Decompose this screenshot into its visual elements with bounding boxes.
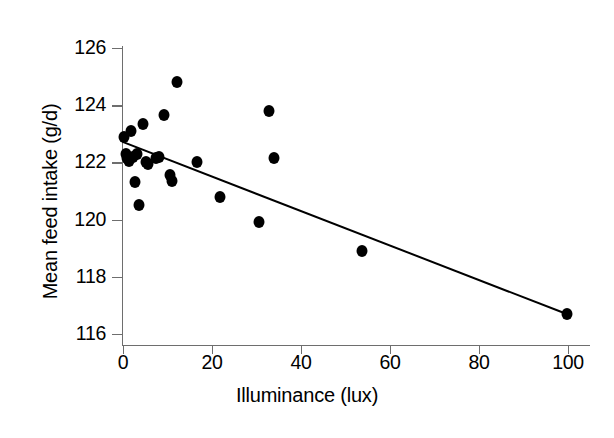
x-tick-label-80: 80 bbox=[449, 353, 509, 373]
y-tick-label-122: 122 bbox=[60, 152, 106, 172]
y-tick-124 bbox=[112, 105, 122, 106]
y-tick-116 bbox=[112, 334, 122, 335]
data-point bbox=[137, 118, 148, 130]
data-point bbox=[126, 125, 137, 137]
x-axis-line bbox=[122, 345, 590, 346]
y-tick-126 bbox=[112, 48, 122, 49]
x-axis-title: Illuminance (lux) bbox=[0, 384, 614, 407]
y-tick-label-120: 120 bbox=[60, 210, 106, 230]
y-tick-120 bbox=[112, 220, 122, 221]
data-point bbox=[254, 216, 265, 228]
data-point bbox=[268, 152, 279, 164]
data-point bbox=[263, 105, 274, 117]
data-point bbox=[166, 175, 177, 187]
x-tick-label-40: 40 bbox=[271, 353, 331, 373]
x-tick-label-0: 0 bbox=[93, 353, 153, 373]
data-point bbox=[215, 191, 226, 203]
trend-line bbox=[122, 141, 568, 315]
data-point bbox=[159, 109, 170, 121]
y-tick-118 bbox=[112, 277, 122, 278]
y-tick-label-118: 118 bbox=[60, 267, 106, 287]
y-tick-label-126: 126 bbox=[60, 38, 106, 58]
y-tick-label-116: 116 bbox=[60, 324, 106, 344]
x-tick-label-60: 60 bbox=[360, 353, 420, 373]
data-point bbox=[129, 176, 140, 188]
x-tick-label-100: 100 bbox=[538, 353, 598, 373]
plot-area bbox=[123, 48, 568, 334]
data-point bbox=[191, 156, 202, 168]
data-point bbox=[134, 199, 145, 211]
data-point bbox=[357, 245, 368, 257]
x-tick-label-20: 20 bbox=[182, 353, 242, 373]
y-tick-label-124: 124 bbox=[60, 95, 106, 115]
y-axis-title: Mean feed intake (g/d) bbox=[39, 32, 62, 372]
y-tick-122 bbox=[112, 162, 122, 163]
scatter-plot-figure: 116118120122124126 020406080100 Illumina… bbox=[0, 0, 614, 438]
data-point bbox=[172, 76, 183, 88]
